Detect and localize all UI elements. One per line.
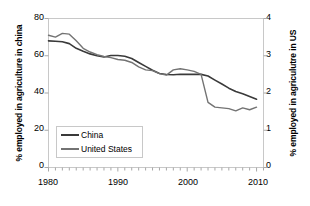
chart-figure: % employed in agriculture in china % emp… <box>0 0 310 206</box>
plot-area: China United States <box>0 0 310 206</box>
series-line-united-states <box>49 33 257 110</box>
legend-label-united-states: United States <box>81 144 132 154</box>
y-axis-right-ticks <box>264 19 268 168</box>
chart-legend: China United States <box>57 127 143 158</box>
x-axis-minor-ticks <box>49 168 264 172</box>
legend-label-china: China <box>81 130 103 140</box>
